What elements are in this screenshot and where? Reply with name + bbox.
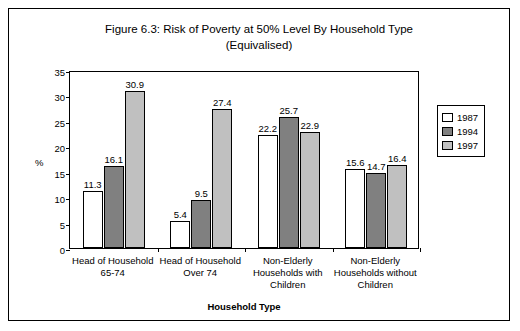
chart-title: Figure 6.3: Risk of Poverty at 50% Level… xyxy=(49,21,469,53)
bar-group: 15.614.716.4 xyxy=(333,72,421,248)
legend: 198719941997 xyxy=(437,105,485,157)
legend-label: 1994 xyxy=(457,126,478,137)
y-tick-label: 15 xyxy=(54,168,65,179)
x-category-label-line: Non-Elderly xyxy=(332,255,420,267)
bar-1997[interactable]: 22.9 xyxy=(300,132,320,248)
y-tick-label: 10 xyxy=(54,194,65,205)
bar-1994[interactable]: 16.1 xyxy=(104,166,124,248)
x-tick-mark xyxy=(333,248,334,252)
x-category-label: Non-ElderlyHouseholds withoutChildren xyxy=(332,255,420,291)
y-axis-label: % xyxy=(35,157,43,168)
bar-group: 22.225.722.9 xyxy=(245,72,333,248)
bar-1987[interactable]: 11.3 xyxy=(83,191,103,248)
y-tick-label: 0 xyxy=(60,245,65,256)
bar-1994[interactable]: 14.7 xyxy=(366,173,386,248)
plot-area: 05101520253035 11.316.130.95.49.527.422.… xyxy=(69,71,419,249)
bar-value-label: 27.4 xyxy=(213,97,232,108)
bar-value-label: 9.5 xyxy=(195,188,208,199)
x-category-label: Non-ElderlyHouseholds withChildren xyxy=(244,255,332,291)
bar-1997[interactable]: 16.4 xyxy=(387,165,407,248)
legend-label: 1987 xyxy=(457,112,478,123)
bar-value-label: 14.7 xyxy=(367,161,386,172)
bar-value-label: 30.9 xyxy=(126,79,145,90)
bar-value-label: 16.4 xyxy=(388,153,407,164)
x-category-label-line: Head of Household xyxy=(69,255,157,267)
x-tick-mark xyxy=(158,248,159,252)
x-tick-mark xyxy=(245,248,246,252)
bar-value-label: 11.3 xyxy=(84,179,102,190)
bar-value-label: 16.1 xyxy=(105,154,124,165)
legend-swatch xyxy=(442,113,453,122)
chart-title-line-2: (Equivalised) xyxy=(49,37,469,53)
bar-1997[interactable]: 30.9 xyxy=(125,91,145,248)
y-tick-label: 35 xyxy=(54,67,65,78)
y-tick-label: 5 xyxy=(60,219,65,230)
bar-value-label: 22.2 xyxy=(259,123,278,134)
bar-1987[interactable]: 22.2 xyxy=(258,135,278,248)
legend-item-1987[interactable]: 1987 xyxy=(442,110,478,124)
bar-1987[interactable]: 15.6 xyxy=(345,169,365,248)
x-category-label: Head of Household65-74 xyxy=(69,255,157,279)
y-tick-label: 20 xyxy=(54,143,65,154)
legend-item-1994[interactable]: 1994 xyxy=(442,124,478,138)
y-tick-mark xyxy=(66,250,70,251)
y-tick-label: 30 xyxy=(54,92,65,103)
bar-1987[interactable]: 5.4 xyxy=(170,221,190,248)
bar-group: 5.49.527.4 xyxy=(158,72,246,248)
bar-value-label: 22.9 xyxy=(301,120,320,131)
y-tick-label: 25 xyxy=(54,117,65,128)
bar-value-label: 15.6 xyxy=(346,157,365,168)
bars-layer: 11.316.130.95.49.527.422.225.722.915.614… xyxy=(70,72,418,248)
bar-group: 11.316.130.9 xyxy=(70,72,158,248)
x-category-label-line: Head of Household xyxy=(157,255,245,267)
bar-1994[interactable]: 25.7 xyxy=(279,117,299,248)
legend-item-1997[interactable]: 1997 xyxy=(442,138,478,152)
x-category-label-line: 65-74 xyxy=(69,267,157,279)
bar-1994[interactable]: 9.5 xyxy=(191,200,211,248)
x-category-label: Head of HouseholdOver 74 xyxy=(157,255,245,279)
bar-value-label: 5.4 xyxy=(174,209,187,220)
x-category-label-line: Households without xyxy=(332,267,420,279)
chart-container: Figure 6.3: Risk of Poverty at 50% Level… xyxy=(8,8,510,321)
legend-swatch xyxy=(442,127,453,136)
chart-title-line-1: Figure 6.3: Risk of Poverty at 50% Level… xyxy=(49,21,469,37)
bar-1997[interactable]: 27.4 xyxy=(212,109,232,248)
legend-label: 1997 xyxy=(457,140,478,151)
x-category-label-line: Children xyxy=(332,279,420,291)
x-category-label-line: Children xyxy=(244,279,332,291)
x-category-label-line: Non-Elderly xyxy=(244,255,332,267)
x-axis-label: Household Type xyxy=(69,301,419,312)
x-category-label-line: Households with xyxy=(244,267,332,279)
legend-swatch xyxy=(442,141,453,150)
x-category-label-line: Over 74 xyxy=(157,267,245,279)
bar-value-label: 25.7 xyxy=(280,105,299,116)
x-tick-mark xyxy=(420,248,421,252)
